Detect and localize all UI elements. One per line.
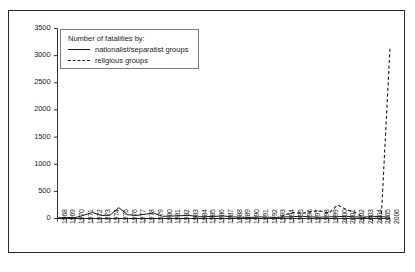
- legend-title: Number of fatalities by:: [68, 34, 145, 43]
- legend-solid-line-icon: [68, 49, 90, 50]
- chart-legend: Number of fatalities by: nationalist/sep…: [60, 29, 199, 69]
- series-line-nationalist: [58, 208, 391, 218]
- legend-label-religious: religious groups: [95, 56, 148, 65]
- legend-label-nationalist: nationalist/separatist groups: [95, 45, 188, 54]
- series-line-religious: [58, 48, 391, 219]
- chart-figure: 0500100015002000250030003500 19681969197…: [0, 0, 415, 272]
- legend-dashed-line-icon: [68, 60, 90, 61]
